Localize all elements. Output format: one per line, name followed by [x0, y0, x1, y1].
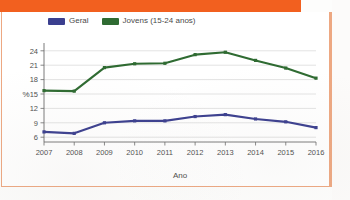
- y-tick-label: 9: [34, 119, 38, 128]
- y-tick-label: 12: [30, 104, 38, 113]
- series-lines: [42, 51, 317, 135]
- x-tick-label: 2015: [277, 148, 294, 157]
- data-point-marker: [254, 117, 257, 120]
- y-axis-title: %: [22, 90, 29, 99]
- data-point-marker: [254, 59, 257, 62]
- x-axis-title: Ano: [173, 171, 188, 180]
- data-point-marker: [133, 119, 136, 122]
- x-tick-label: 2014: [247, 148, 264, 157]
- data-point-marker: [224, 51, 227, 54]
- data-point-marker: [73, 90, 76, 93]
- data-point-marker: [42, 89, 45, 92]
- data-point-marker: [194, 115, 197, 118]
- y-tick-label: 18: [30, 75, 38, 84]
- grid-lines: [44, 51, 316, 137]
- data-point-marker: [133, 62, 136, 65]
- data-point-marker: [103, 66, 106, 69]
- chart-screenshot: Geral Jovens (15-24 anos) 691215182124 2…: [0, 0, 350, 200]
- x-tick-label: 2007: [36, 148, 53, 157]
- x-tick-label: 2010: [126, 148, 143, 157]
- x-axis: 2007200820092010201120122013201420152016: [36, 142, 325, 157]
- data-point-marker: [314, 126, 317, 129]
- data-point-marker: [224, 113, 227, 116]
- y-tick-label: 24: [30, 47, 38, 56]
- y-axis: 691215182124: [30, 43, 44, 142]
- axis-titles: %Ano: [22, 90, 187, 180]
- data-point-marker: [194, 53, 197, 56]
- y-tick-label: 6: [34, 133, 38, 142]
- x-tick-label: 2013: [217, 148, 234, 157]
- data-point-marker: [284, 120, 287, 123]
- data-point-marker: [73, 132, 76, 135]
- x-tick-label: 2012: [187, 148, 204, 157]
- data-point-marker: [314, 77, 317, 80]
- data-point-marker: [284, 66, 287, 69]
- data-point-marker: [103, 121, 106, 124]
- y-tick-label: 15: [30, 90, 38, 99]
- x-tick-label: 2011: [157, 148, 173, 157]
- x-tick-label: 2009: [96, 148, 113, 157]
- series-line-geral: [44, 115, 316, 134]
- series-line-jovens: [44, 52, 316, 91]
- chart-canvas: 691215182124 200720082009201020112012201…: [0, 0, 332, 200]
- x-tick-label: 2008: [66, 148, 83, 157]
- line-chart: 691215182124 200720082009201020112012201…: [0, 0, 332, 200]
- y-tick-label: 21: [30, 61, 38, 70]
- data-point-marker: [163, 119, 166, 122]
- data-point-marker: [42, 130, 45, 133]
- x-tick-label: 2016: [308, 148, 325, 157]
- data-point-marker: [163, 62, 166, 65]
- page-margin-strip: [332, 0, 350, 200]
